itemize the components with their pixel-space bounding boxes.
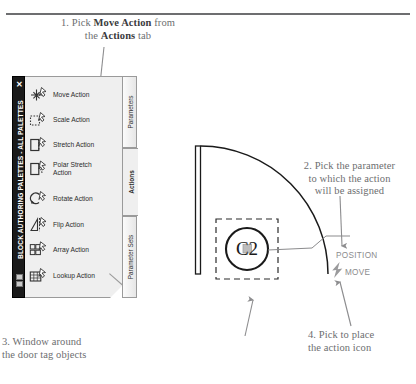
palette-titlebar-buttons[interactable] <box>14 273 25 295</box>
tab-actions[interactable]: Actions <box>122 148 138 216</box>
palette-body: Move Action Scale Action <box>25 76 123 298</box>
move-action-label: MOVE <box>345 268 370 277</box>
palette-item-label: Move Action <box>53 91 89 99</box>
tab-parameters[interactable]: Parameters <box>122 76 137 148</box>
palette-item-label: Flip Action <box>53 221 84 229</box>
callout-1-line1-bold: Move Action <box>94 17 152 28</box>
palette-item-label: Scale Action <box>53 116 90 124</box>
callout-1-line1-post: from <box>152 17 176 28</box>
callout-3-line1: 3. Window around <box>2 336 81 347</box>
polar-stretch-action-icon <box>29 160 48 177</box>
palette-item-polar-stretch-action[interactable]: Polar Stretch Action <box>29 160 123 177</box>
move-action-icon <box>29 86 48 103</box>
callout-3-line2: the door tag objects <box>2 349 87 360</box>
palette-item-label: Polar Stretch Action <box>53 161 92 177</box>
tab-parameter-sets[interactable]: Parameter Sets <box>122 216 137 298</box>
tab-parameter-sets-label: Parameter Sets <box>126 235 133 279</box>
auto-hide-icon[interactable] <box>16 274 23 280</box>
palette-item-label: Rotate Action <box>53 195 93 203</box>
palette-item-label: Stretch Action <box>53 141 94 149</box>
palette-item-label-line1: Polar Stretch <box>53 161 92 168</box>
position-leader-line <box>268 236 350 250</box>
callout-1-line2-post: tab <box>135 30 151 41</box>
scale-action-icon <box>29 111 48 128</box>
palette-item-move-action[interactable]: Move Action <box>29 86 123 103</box>
cad-drawing <box>190 140 390 340</box>
palette-item-array-action[interactable]: Array Action <box>29 241 123 258</box>
callout-3-text: 3. Window around the door tag objects <box>2 336 162 361</box>
palette-item-flip-action[interactable]: Flip Action <box>29 216 123 233</box>
array-action-icon <box>29 241 48 258</box>
properties-menu-icon[interactable] <box>16 281 23 287</box>
rotate-action-icon <box>29 190 48 207</box>
lookup-action-icon <box>29 267 48 284</box>
door-panel <box>196 146 201 274</box>
tab-actions-label: Actions <box>127 170 134 193</box>
palette-item-stretch-action[interactable]: Stretch Action <box>29 136 123 153</box>
palette-item-label-line2: Action <box>53 169 72 176</box>
callout-1-text: 1. Pick Move Action from the Actions tab <box>28 17 208 42</box>
callout-1-line2-pre: the <box>85 30 101 41</box>
lightning-bolt-icon[interactable] <box>331 262 344 278</box>
stretch-action-icon <box>29 136 48 153</box>
tab-parameters-label: Parameters <box>126 95 133 128</box>
palette-item-rotate-action[interactable]: Rotate Action <box>29 190 123 207</box>
door-tag-text: C2 <box>224 237 270 261</box>
palette-item-label: Lookup Action <box>53 272 95 280</box>
diagram-stage: 1. Pick Move Action from the Actions tab… <box>0 0 416 384</box>
block-authoring-palettes-window[interactable]: ✕ BLOCK AUTHORING PALETTES - ALL PALETTE… <box>12 76 138 298</box>
palette-titlebar[interactable]: ✕ BLOCK AUTHORING PALETTES - ALL PALETTE… <box>12 76 25 298</box>
palette-item-lookup-action[interactable]: Lookup Action <box>29 267 123 284</box>
callout-1-line1-pre: 1. Pick <box>61 17 94 28</box>
callout-1-line2-bold: Actions <box>101 30 136 41</box>
palette-item-label: Array Action <box>53 246 89 254</box>
palette-item-scale-action[interactable]: Scale Action <box>29 111 123 128</box>
position-parameter-label: POSITION <box>336 251 378 260</box>
flip-action-icon <box>29 216 48 233</box>
header-divider <box>6 13 410 15</box>
callout-4-line2: the action icon <box>308 342 371 353</box>
